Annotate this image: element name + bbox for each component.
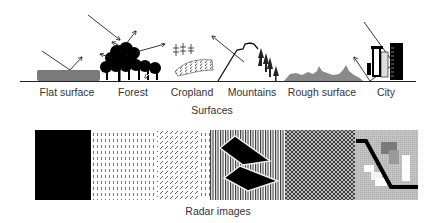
radar-panel-city: [355, 130, 418, 200]
radar-panel-forest: [91, 130, 155, 200]
city-icon: [354, 22, 403, 81]
flat-surface-icon: [37, 51, 100, 81]
radar-images-caption: Radar images: [185, 206, 250, 217]
radar-panel-rough: [285, 130, 355, 200]
rough-surface-icon: [284, 65, 363, 81]
label-cropland: Cropland: [171, 87, 214, 98]
surfaces-illustration: [20, 15, 416, 82]
radar-panel-cropland: [155, 130, 210, 200]
cropland-icon: [173, 43, 213, 76]
mountains-icon: [212, 36, 279, 81]
label-flat-surface: Flat surface: [40, 87, 95, 98]
label-forest: Forest: [118, 87, 148, 98]
label-mountains: Mountains: [228, 87, 276, 98]
label-rough-surface: Rough surface: [288, 87, 356, 98]
radar-panel-mountains: [210, 130, 285, 200]
radar-panel-flat: [35, 130, 91, 200]
surfaces-caption: Surfaces: [191, 105, 232, 116]
radar-images-strip: [35, 130, 418, 200]
label-city: City: [377, 87, 395, 98]
